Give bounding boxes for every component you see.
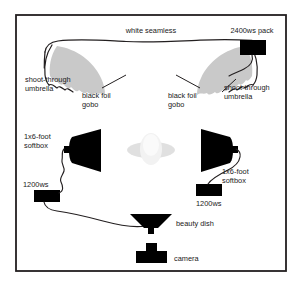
label-softbox-left-line2: softbox [24, 141, 48, 150]
label-white-seamless: white seamless [125, 26, 177, 35]
label-2400ws-pack: 2400ws pack [230, 26, 273, 35]
label-softbox-right-line2: softbox [222, 176, 246, 185]
label-beauty-dish: beauty dish [176, 219, 214, 228]
power-pack-1200ws-left [34, 190, 60, 202]
label-shoot-through-umbrella-right-line1: shoot-through [224, 83, 270, 92]
power-pack-2400ws [240, 40, 266, 55]
label-black-foil-gobo-left-line1: black foil [82, 91, 111, 100]
label-shoot-through-umbrella-right-line2: umbrella [224, 92, 253, 101]
power-pack-1200ws-right [196, 184, 222, 196]
label-1200ws-left: 1200ws [23, 180, 49, 189]
lighting-diagram: white seamless 2400ws pack shoot-through… [0, 0, 302, 283]
label-softbox-left-line1: 1x6-foot [24, 132, 51, 141]
label-camera: camera [174, 254, 200, 263]
label-softbox-right-line1: 1x6-foot [222, 167, 249, 176]
label-1200ws-right: 1200ws [196, 199, 222, 208]
label-black-foil-gobo-left-line2: gobo [82, 100, 98, 109]
label-black-foil-gobo-right-line1: black foil [168, 91, 197, 100]
label-shoot-through-umbrella-left-line1: shoot-through [25, 75, 71, 84]
label-shoot-through-umbrella-left-line2: umbrella [25, 84, 54, 93]
label-black-foil-gobo-right-line2: gobo [168, 100, 184, 109]
